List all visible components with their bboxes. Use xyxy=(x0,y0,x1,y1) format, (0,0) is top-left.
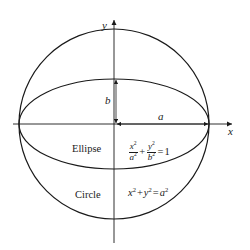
semi-major-axis-label: a xyxy=(158,111,164,122)
ellipse-y-denominator: b2 xyxy=(147,152,156,163)
circle-equals-sign: = xyxy=(152,188,160,199)
diagram-canvas xyxy=(0,0,250,250)
ellipse-y-fraction: y2 b2 xyxy=(147,142,156,162)
x-axis-label: x xyxy=(228,126,233,137)
y-axis-label: y xyxy=(102,20,107,31)
circle-equation: x2 + y2 = a2 xyxy=(128,188,168,199)
circle-plus-sign: + xyxy=(136,188,144,199)
circle-radius-term: a2 xyxy=(160,188,169,199)
ellipse-label: Ellipse xyxy=(72,144,101,155)
ellipse-circle-diagram: y x b a Ellipse x2 a2 + y2 b2 = 1 Circle… xyxy=(0,0,250,250)
ellipse-x-denominator: a2 xyxy=(129,152,138,163)
ellipse-x-fraction: x2 a2 xyxy=(129,142,138,162)
circle-y-term: y2 xyxy=(144,188,152,199)
circle-x-term: x2 xyxy=(128,188,136,199)
ellipse-plus-sign: + xyxy=(138,147,146,158)
ellipse-equals-sign: = xyxy=(157,147,165,158)
semi-minor-axis-label: b xyxy=(105,95,111,106)
ellipse-equation: x2 a2 + y2 b2 = 1 xyxy=(128,142,170,162)
circle-label: Circle xyxy=(75,190,101,201)
ellipse-equation-rhs: 1 xyxy=(164,147,169,158)
